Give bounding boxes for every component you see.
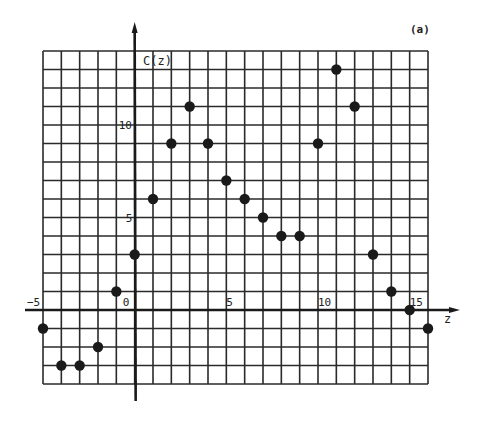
data-point: [203, 138, 213, 148]
x-tick-label: 0: [123, 296, 130, 309]
x-tick-label: −5: [27, 296, 40, 309]
data-point: [38, 323, 48, 333]
data-point: [294, 231, 304, 241]
panel-label: (a): [410, 23, 430, 36]
data-point: [166, 138, 176, 148]
data-point: [276, 231, 286, 241]
data-point: [423, 323, 433, 333]
data-point: [221, 175, 231, 185]
x-axis-label: z: [444, 312, 451, 326]
chart-grid: [43, 51, 428, 384]
data-point: [129, 249, 139, 259]
data-point: [368, 249, 378, 259]
x-tick-label: 15: [410, 296, 423, 309]
y-axis: [135, 30, 136, 401]
data-point: [111, 286, 121, 296]
data-point: [184, 101, 194, 111]
data-point: [386, 286, 396, 296]
chart-axes: [25, 22, 460, 401]
data-point: [148, 194, 158, 204]
x-tick-label: 5: [226, 296, 233, 309]
data-point: [258, 212, 268, 222]
y-axis-arrow-icon: [132, 22, 138, 33]
data-point: [349, 101, 359, 111]
scatter-chart: −5051015510: [0, 0, 480, 422]
y-axis-label: C(z): [143, 54, 172, 68]
data-point: [93, 342, 103, 352]
data-point: [74, 360, 84, 370]
data-point: [239, 194, 249, 204]
y-tick-label: 5: [126, 212, 133, 225]
data-point: [331, 64, 341, 74]
x-tick-label: 10: [318, 296, 331, 309]
y-tick-label: 10: [119, 119, 132, 132]
data-point: [313, 138, 323, 148]
data-point: [56, 360, 66, 370]
chart-labels: −5051015510: [27, 119, 423, 309]
